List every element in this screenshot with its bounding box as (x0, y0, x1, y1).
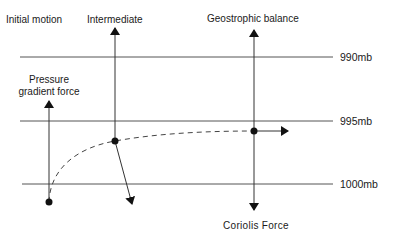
parcel-initial-dot (46, 199, 53, 206)
air-parcel-trajectory (49, 131, 254, 202)
isobar-label-995mb: 995mb (340, 115, 372, 127)
intermediate-coriolis-arrow (115, 141, 132, 204)
pressure-gradient-label-line1: Pressure (16, 74, 82, 86)
pressure-gradient-label: Pressure gradient force (16, 74, 82, 98)
geostrophic-wind-diagram (0, 0, 394, 244)
stage-label-intermediate: Intermediate (87, 14, 143, 26)
isobar-label-990mb: 990mb (340, 51, 372, 63)
stage-label-initial: Initial motion (6, 14, 62, 26)
stage-label-geostrophic: Geostrophic balance (207, 13, 299, 25)
isobar-label-1000mb: 1000mb (340, 178, 378, 190)
parcel-intermediate-dot (112, 138, 119, 145)
parcel-geostrophic-dot (251, 128, 258, 135)
pressure-gradient-label-line2: gradient force (16, 86, 82, 98)
coriolis-force-label: Coriolis Force (223, 220, 289, 232)
